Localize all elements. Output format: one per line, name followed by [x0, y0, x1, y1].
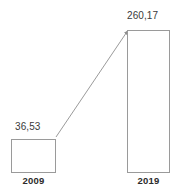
category-label-2019: 2019: [127, 175, 170, 186]
value-label-2019: 260,17: [127, 10, 158, 21]
category-label-2009: 2009: [11, 175, 56, 186]
bar-2019[interactable]: [127, 30, 170, 173]
bar-chart: 36,53 2009 260,17 2019: [0, 0, 177, 194]
value-label-2009: 36,53: [15, 121, 41, 132]
bar-2009[interactable]: [11, 139, 56, 173]
